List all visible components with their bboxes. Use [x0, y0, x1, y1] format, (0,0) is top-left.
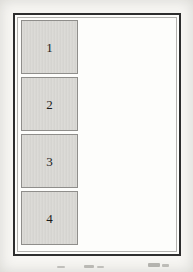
caption-glyph-top	[97, 266, 104, 268]
scanned-figure: 1 2 3 4	[0, 0, 193, 272]
panel-1: 1	[21, 20, 78, 74]
panel-4-label: 4	[46, 212, 53, 225]
caption-glyph-top	[148, 263, 160, 267]
sheet-frame: 1 2 3 4	[13, 13, 181, 256]
cutoff-caption-fragment	[0, 260, 193, 272]
panel-3: 3	[21, 134, 78, 188]
panel-column: 1 2 3 4	[21, 20, 78, 245]
caption-glyph-top	[162, 264, 169, 267]
panel-2-label: 2	[46, 98, 53, 111]
panel-2: 2	[21, 77, 78, 131]
panel-3-label: 3	[46, 155, 53, 168]
caption-glyph-top	[84, 265, 94, 268]
panel-4: 4	[21, 191, 78, 245]
caption-glyph-top	[57, 266, 65, 268]
panel-1-label: 1	[46, 41, 53, 54]
